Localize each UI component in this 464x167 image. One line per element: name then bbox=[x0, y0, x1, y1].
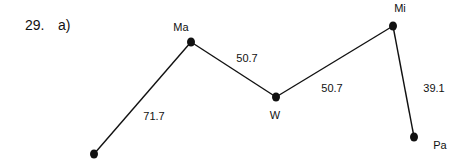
edge-mi-pa bbox=[393, 26, 414, 137]
graph bbox=[0, 0, 464, 167]
node-label-ma: Ma bbox=[173, 21, 188, 33]
edge-weight-w-mi: 50.7 bbox=[321, 82, 342, 94]
node-label-mi: Mi bbox=[394, 2, 406, 14]
node-mi bbox=[389, 22, 397, 31]
node-start bbox=[90, 150, 98, 159]
node-ma bbox=[187, 38, 195, 47]
edge-weight-ma-w: 50.7 bbox=[236, 52, 257, 64]
edge-weight-start-ma: 71.7 bbox=[143, 110, 164, 122]
node-label-pa: Pa bbox=[433, 139, 446, 151]
edge-weight-mi-pa: 39.1 bbox=[423, 82, 444, 94]
diagram-canvas: 29. a) Ma W Mi Pa 71.7 50.7 50.7 39.1 bbox=[0, 0, 464, 167]
node-label-w: W bbox=[270, 109, 280, 121]
edge-start-ma bbox=[94, 42, 191, 154]
edge-ma-w bbox=[191, 42, 276, 97]
node-w bbox=[272, 93, 280, 102]
node-pa bbox=[410, 133, 418, 142]
